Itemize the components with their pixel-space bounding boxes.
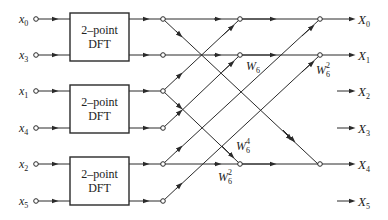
output-label-X4: X4 [357, 157, 370, 174]
output-label-X5: X5 [357, 194, 370, 211]
svg-text:2–point: 2–point [81, 167, 118, 181]
twiddle-w6-fourth: W64 [236, 137, 250, 155]
input-label-x0: x0 [18, 12, 28, 28]
diagonal-wires [163, 19, 319, 201]
output-label-X3: X3 [357, 121, 370, 138]
input-wires [38, 19, 70, 201]
svg-text:DFT: DFT [88, 109, 111, 123]
dft-output-wires [129, 19, 161, 201]
stage1-nodes [161, 17, 166, 204]
dft-block-3: 2–point DFT [70, 157, 129, 205]
output-label-X0: X0 [357, 12, 370, 29]
dft-block-1: 2–point DFT [70, 13, 129, 61]
input-labels: x0 x3 x1 x4 x2 x5 [18, 12, 28, 210]
input-label-x5: x5 [18, 194, 28, 210]
dft-block-2: 2–point DFT [70, 85, 129, 133]
svg-text:DFT: DFT [88, 181, 111, 195]
output-label-X2: X2 [357, 84, 370, 101]
twiddle-w6: W6 [246, 59, 260, 75]
input-label-x2: x2 [18, 157, 28, 173]
twiddle-w6-squared-lower: W62 [218, 168, 232, 186]
output-labels: X0 X1 X2 X3 X4 X5 [357, 12, 370, 211]
stage3-nodes [318, 17, 323, 167]
svg-text:2–point: 2–point [81, 95, 118, 109]
twiddle-w6-squared-upper: W62 [316, 61, 330, 79]
input-nodes [34, 17, 39, 204]
svg-text:DFT: DFT [88, 37, 111, 51]
svg-text:2–point: 2–point [81, 23, 118, 37]
dft-flow-diagram: x0 x3 x1 x4 x2 x5 2–point DFT 2–point DF… [0, 0, 388, 220]
output-label-X1: X1 [357, 48, 370, 65]
input-label-x4: x4 [18, 121, 28, 137]
output-wires [322, 19, 352, 201]
input-label-x1: x1 [18, 84, 28, 100]
input-label-x3: x3 [18, 48, 28, 64]
